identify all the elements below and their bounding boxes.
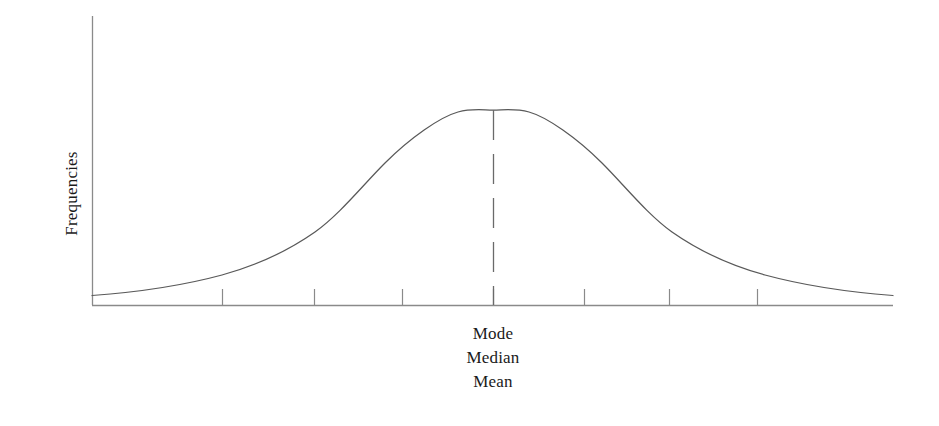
central-tendency-labels: Mode Median Mean [403, 322, 583, 394]
mode-label: Mode [403, 322, 583, 346]
y-axis-title: Frequencies [58, 93, 84, 293]
distribution-curve [92, 110, 893, 296]
frequency-distribution-figure: Frequencies Mode Median Mean [0, 0, 939, 426]
y-axis-title-label: Frequencies [63, 151, 80, 235]
mean-label: Mean [403, 370, 583, 394]
median-label: Median [403, 346, 583, 370]
x-axis-ticks [223, 289, 758, 305]
